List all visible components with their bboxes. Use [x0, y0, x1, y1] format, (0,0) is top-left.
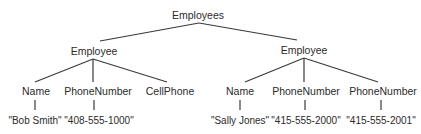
tree-edge-emp1-emp1_name — [35, 59, 93, 82]
tree-node-emp2-phone1-val: "415-555-2000" — [271, 116, 340, 126]
tree-node-emp1: Employee — [71, 46, 118, 57]
tree-edge-emp2-emp2_name — [245, 58, 304, 82]
tree-edge-emp1-emp1_cell — [93, 59, 167, 82]
tree-node-root: Employees — [172, 10, 224, 21]
tree-node-emp2-phone2: PhoneNumber — [349, 86, 417, 97]
tree-edges — [35, 23, 381, 110]
tree-edge-root-emp2 — [199, 23, 297, 40]
tree-node-emp2-name-val: "Sally Jones" — [211, 116, 269, 126]
tree-node-emp1-phone-val: "408-555-1000" — [64, 116, 133, 126]
tree-node-emp1-name-val: "Bob Smith" — [8, 116, 61, 126]
tree-node-emp2-name: Name — [226, 86, 254, 97]
tree-node-emp1-name: Name — [22, 86, 50, 97]
tree-node-emp2-phone1: PhoneNumber — [272, 86, 340, 97]
tree-node-emp2: Employee — [281, 45, 328, 56]
tree-node-emp2-phone2-val: "415-555-2001" — [346, 116, 415, 126]
tree-node-emp1-cell: CellPhone — [146, 86, 194, 97]
tree-edge-root-emp1 — [100, 23, 199, 41]
tree-edge-emp2-emp2_phone2 — [304, 58, 378, 82]
tree-node-emp1-phone: PhoneNumber — [64, 86, 132, 97]
